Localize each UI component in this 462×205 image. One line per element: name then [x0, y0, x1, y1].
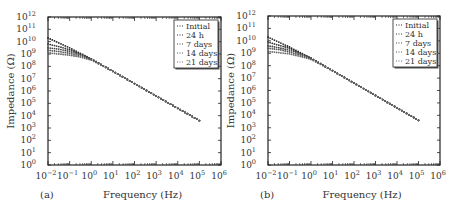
- data-point: [69, 49, 71, 51]
- data-point: [136, 84, 138, 86]
- data-point: [54, 50, 56, 52]
- data-point: [365, 89, 367, 91]
- data-point: [71, 51, 73, 53]
- tick-label: 1010: [236, 34, 256, 46]
- panel-label: (a): [40, 189, 54, 200]
- chart-panel-b: 10−210−110010110210310410510610010110210…: [225, 9, 446, 200]
- data-point: [47, 37, 49, 39]
- data-point: [95, 62, 97, 64]
- data-point: [90, 59, 92, 61]
- data-point: [274, 39, 276, 41]
- data-point: [274, 43, 276, 45]
- data-point: [77, 56, 79, 58]
- data-point: [324, 66, 326, 68]
- tick-label: 105: [240, 96, 256, 108]
- data-point: [64, 54, 66, 56]
- data-point: [306, 57, 308, 59]
- data-point: [332, 70, 334, 72]
- data-point: [58, 42, 60, 44]
- data-point: [54, 40, 56, 42]
- data-point: [165, 101, 167, 103]
- data-point: [56, 53, 58, 55]
- tick-label: 106: [20, 84, 36, 96]
- data-point: [69, 51, 71, 53]
- data-point: [280, 47, 282, 49]
- data-point: [67, 46, 69, 48]
- data-point: [287, 53, 289, 55]
- data-point: [124, 77, 126, 79]
- data-point: [297, 55, 299, 57]
- data-point: [56, 45, 58, 47]
- chart-panel-a: 10−210−110010110210310410510610010110210…: [5, 10, 227, 200]
- tick-label: 109: [240, 46, 256, 58]
- data-point: [196, 118, 198, 120]
- data-point: [155, 95, 157, 97]
- data-point: [396, 107, 398, 109]
- data-point: [284, 48, 286, 50]
- data-point: [284, 50, 286, 52]
- data-point: [60, 53, 62, 55]
- data-point: [379, 97, 381, 99]
- data-point: [384, 100, 386, 102]
- data-point: [282, 46, 284, 48]
- data-point: [60, 43, 62, 45]
- tick-label: 107: [20, 72, 36, 84]
- data-point: [269, 42, 271, 44]
- data-point: [269, 51, 271, 53]
- data-point: [49, 44, 51, 46]
- data-point: [267, 36, 269, 38]
- tick-label: 10−2: [255, 169, 276, 181]
- data-point: [358, 85, 360, 87]
- data-point: [389, 103, 391, 105]
- tick-label: 10−1: [57, 169, 78, 181]
- data-point: [54, 48, 56, 50]
- data-point: [54, 53, 56, 55]
- data-point: [62, 54, 64, 56]
- data-point: [73, 52, 75, 54]
- data-point: [47, 47, 49, 49]
- data-point: [56, 41, 58, 43]
- data-point: [58, 51, 60, 53]
- legend-label: Initial: [186, 22, 210, 31]
- data-point: [282, 48, 284, 50]
- data-point: [353, 82, 355, 84]
- data-point: [367, 90, 369, 92]
- data-point: [67, 52, 69, 54]
- data-point: [348, 79, 350, 81]
- data-point: [269, 37, 271, 39]
- data-point: [284, 46, 286, 48]
- tick-label: 103: [240, 121, 256, 133]
- x-axis-label: Frequency (Hz): [103, 189, 182, 200]
- tick-label: 1011: [16, 22, 36, 34]
- data-point: [280, 45, 282, 47]
- data-point: [346, 78, 348, 80]
- data-point: [122, 76, 124, 78]
- data-point: [410, 115, 412, 117]
- data-point: [341, 75, 343, 77]
- data-point: [189, 114, 191, 116]
- figure: 10−210−110010110210310410510610010110210…: [0, 0, 462, 205]
- data-point: [141, 87, 143, 89]
- tick-label: 100: [81, 169, 97, 181]
- data-point: [64, 50, 66, 52]
- data-point: [69, 53, 71, 55]
- tick-label: 105: [409, 169, 425, 181]
- data-point: [93, 61, 95, 63]
- data-point: [327, 67, 329, 69]
- tick-label: 107: [240, 71, 256, 83]
- data-point: [153, 94, 155, 96]
- data-point: [276, 48, 278, 50]
- tick-label: 105: [20, 96, 36, 108]
- data-point: [375, 95, 377, 97]
- data-point: [287, 51, 289, 53]
- data-point: [158, 96, 160, 98]
- data-point: [399, 108, 401, 110]
- data-point: [49, 50, 51, 52]
- tick-label: 102: [20, 133, 36, 145]
- data-point: [64, 52, 66, 54]
- tick-label: 103: [20, 121, 36, 133]
- data-point: [329, 69, 331, 71]
- tick-label: 108: [240, 59, 256, 71]
- data-point: [134, 83, 136, 85]
- data-point: [278, 44, 280, 46]
